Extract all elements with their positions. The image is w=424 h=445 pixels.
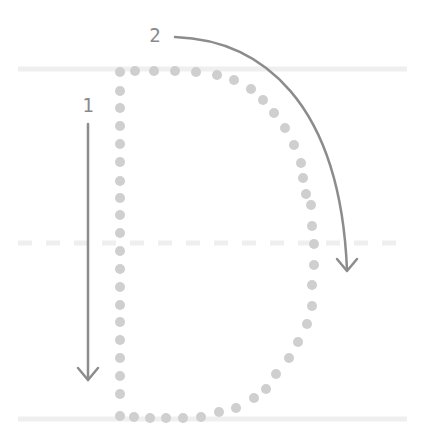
stroke-1-arrow [78,124,98,380]
d-stem-dots [115,67,125,421]
letter-d-tracing-diagram: 1 2 [0,0,424,445]
guide-lines [18,69,407,419]
stroke-1-number: 1 [82,94,93,116]
stroke-2-number: 2 [149,24,160,46]
stroke-2-arrow [175,37,357,271]
